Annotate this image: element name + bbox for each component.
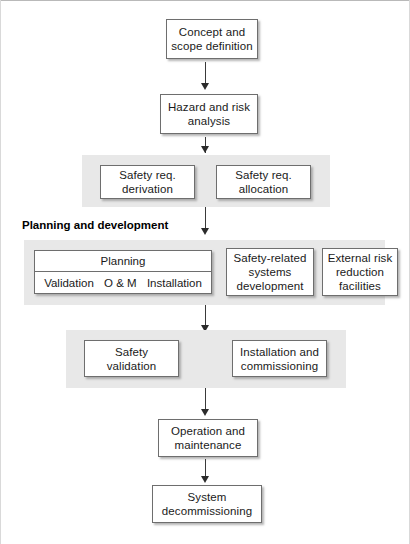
node-concept-line-1: Concept and: [171, 25, 253, 39]
node-installation-commissioning-line-1: Installation and: [240, 345, 319, 359]
node-hazard-line-1: Hazard and risk: [168, 100, 250, 114]
node-hazard-line-2: analysis: [168, 114, 250, 128]
flowchart-diagram: Concept and scope definition Hazard and …: [0, 0, 410, 544]
node-external-risk-line-3: facilities: [328, 279, 393, 293]
node-operation-maintenance-line-2: maintenance: [171, 438, 245, 452]
node-planning-composite[interactable]: Planning Validation O & M Installation: [34, 250, 212, 294]
node-planning-title: Planning: [35, 251, 211, 272]
figure-frame-left-border: [0, 0, 1, 544]
node-safety-req-allocation[interactable]: Safety req. allocation: [216, 165, 311, 199]
node-safety-related-systems-line-3: development: [234, 279, 307, 293]
node-planning-subitem-o-and-m[interactable]: O & M: [104, 277, 137, 289]
node-external-risk-line-2: reduction: [328, 265, 393, 279]
arrow-operation-to-decommissioning-head: [201, 476, 209, 483]
node-safety-validation-line-1: Safety: [107, 345, 157, 359]
arrow-hazard-to-requirements-head: [201, 146, 209, 153]
node-concept-and-scope-definition[interactable]: Concept and scope definition: [166, 19, 258, 59]
node-safety-validation-line-2: validation: [107, 359, 157, 373]
node-system-decommissioning-line-2: decommissioning: [162, 504, 252, 518]
node-operation-maintenance-line-1: Operation and: [171, 424, 245, 438]
node-safety-related-systems-development[interactable]: Safety-related systems development: [226, 248, 314, 296]
node-safety-req-allocation-line-2: allocation: [235, 182, 292, 196]
node-installation-commissioning-line-2: commissioning: [240, 359, 319, 373]
node-system-decommissioning-line-1: System: [162, 490, 252, 504]
node-hazard-and-risk-analysis[interactable]: Hazard and risk analysis: [160, 94, 258, 134]
node-planning-subitem-validation[interactable]: Validation: [44, 277, 94, 289]
node-concept-line-2: scope definition: [171, 39, 253, 53]
node-safety-req-derivation-line-2: derivation: [119, 182, 176, 196]
arrow-validation-to-operation-head: [201, 409, 209, 416]
arrow-requirements-to-planning-head: [201, 228, 209, 235]
node-external-risk-reduction-facilities[interactable]: External risk reduction facilities: [322, 248, 398, 296]
node-safety-related-systems-line-1: Safety-related: [234, 251, 307, 265]
node-external-risk-line-1: External risk: [328, 251, 393, 265]
node-safety-req-derivation-line-1: Safety req.: [119, 168, 176, 182]
node-planning-subitems: Validation O & M Installation: [35, 272, 211, 293]
node-safety-related-systems-line-2: systems: [234, 265, 307, 279]
node-safety-req-derivation[interactable]: Safety req. derivation: [100, 165, 195, 199]
node-planning-subitem-installation[interactable]: Installation: [147, 277, 202, 289]
section-heading-planning-and-development: Planning and development: [22, 219, 168, 231]
arrow-concept-to-hazard-head: [201, 83, 209, 90]
node-installation-and-commissioning[interactable]: Installation and commissioning: [232, 340, 327, 377]
arrow-concept-to-hazard-line: [205, 62, 206, 85]
figure-frame-top-border: [0, 0, 410, 1]
node-operation-and-maintenance[interactable]: Operation and maintenance: [158, 419, 258, 457]
node-safety-validation[interactable]: Safety validation: [84, 340, 179, 377]
node-safety-req-allocation-line-1: Safety req.: [235, 168, 292, 182]
node-system-decommissioning[interactable]: System decommissioning: [152, 485, 262, 523]
